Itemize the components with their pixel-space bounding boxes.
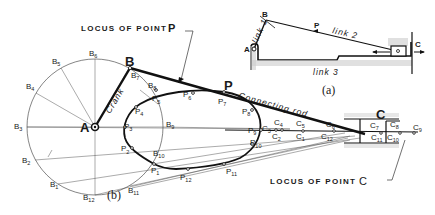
arrowhead-left [372, 50, 377, 54]
inset-label-b: B [262, 10, 268, 19]
svg-text:P4: P4 [135, 107, 143, 117]
label-point-p: P [224, 78, 233, 93]
arrowhead-right [420, 50, 425, 54]
label-point-a: A [80, 120, 90, 135]
main-construction-b: A B P C Crank Connecting rod LOCUS OF PO… [14, 22, 422, 203]
link-2 [266, 20, 393, 50]
label-locus-c: LOCUS OF POINT [270, 177, 356, 186]
svg-text:C3: C3 [262, 124, 271, 134]
inset-label-c: C [415, 40, 421, 49]
svg-text:P8: P8 [242, 107, 250, 117]
svg-text:C1: C1 [296, 132, 305, 142]
label-point-c: C [376, 107, 386, 122]
ground-hatch [252, 60, 412, 66]
pivot-a-center [94, 126, 96, 128]
svg-text:C7: C7 [370, 121, 379, 131]
label-locus-p: LOCUS OF POINT [81, 24, 167, 33]
label-point-b: B [125, 54, 134, 69]
slider-pin [397, 50, 400, 53]
caption-b: (b) [107, 188, 121, 202]
inset-label-link1: link 1 [250, 17, 270, 45]
label-locus-p-letter: P [168, 22, 175, 34]
inset-label-link3: link 3 [313, 67, 339, 77]
svg-text:C5: C5 [296, 119, 305, 129]
svg-text:P7: P7 [218, 97, 226, 107]
svg-text:P3: P3 [124, 122, 132, 132]
svg-text:P11: P11 [226, 167, 237, 177]
svg-text:B9: B9 [166, 120, 174, 130]
svg-text:B2: B2 [22, 156, 30, 166]
svg-text:P1: P1 [151, 166, 159, 176]
pivot-a-small [252, 47, 256, 51]
svg-text:B6: B6 [89, 49, 97, 59]
inset-label-p: P [314, 21, 320, 30]
slider-hatch [388, 38, 408, 46]
svg-text:B5: B5 [52, 57, 60, 67]
label-crank: Crank [103, 86, 126, 115]
svg-text:C4: C4 [274, 118, 283, 128]
svg-text:P12: P12 [180, 173, 191, 183]
guide-hatch-bottom [344, 144, 399, 148]
inset-label-a: A [244, 45, 250, 54]
svg-text:P9: P9 [248, 126, 256, 136]
label-locus-c-letter: C [359, 175, 367, 187]
leader-locus-p [181, 31, 193, 80]
caption-a: (a) [322, 83, 335, 97]
svg-text:C6: C6 [326, 120, 335, 130]
slider-crank-diagram: A B P C link 1 link 2 link 3 (a) [0, 0, 435, 215]
svg-text:B7: B7 [131, 71, 139, 81]
p-point-labels: P1 P2 P3 P4 P5 P6 P7 P8 P9 P10 P11 P12 [121, 90, 261, 183]
svg-text:B1: B1 [50, 180, 58, 190]
svg-text:C9: C9 [413, 123, 422, 133]
guide-hatch-top [344, 113, 399, 117]
svg-text:B8: B8 [148, 81, 156, 91]
svg-text:C12: C12 [321, 132, 333, 142]
svg-text:B3: B3 [14, 122, 22, 132]
svg-text:B4: B4 [26, 82, 34, 92]
svg-text:C10: C10 [387, 133, 399, 143]
svg-text:C2: C2 [272, 132, 281, 142]
svg-text:P10: P10 [250, 138, 261, 149]
inset-mechanism-a: A B P C link 1 link 2 link 3 (a) [244, 10, 425, 97]
